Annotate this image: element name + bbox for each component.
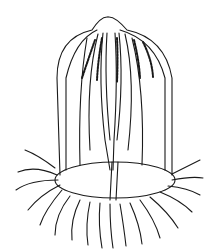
velum [55,162,175,200]
bell [57,17,172,175]
jellyfish-illustration [0,0,213,252]
radial-canals [80,33,143,170]
